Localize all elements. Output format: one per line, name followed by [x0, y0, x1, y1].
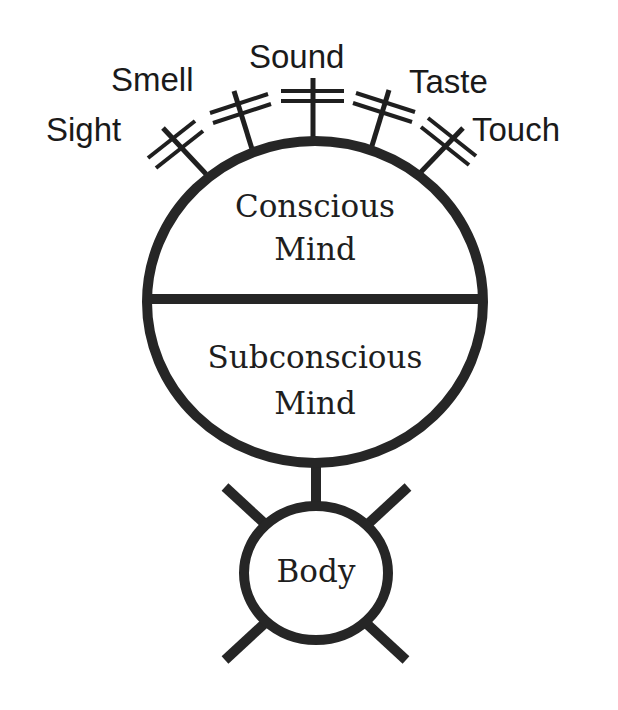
sense-label-taste: Taste [409, 63, 488, 100]
conscious-label-line1: Conscious [235, 188, 395, 224]
sense-label-sight: Sight [46, 111, 121, 148]
diagram-canvas: Sight Smell Sound Taste Touch Conscious … [0, 0, 618, 710]
subconscious-label-line2: Mind [274, 385, 355, 421]
body-label: Body [277, 553, 356, 589]
mind-body-diagram: Sight Smell Sound Taste Touch Conscious … [0, 0, 618, 710]
sense-label-touch: Touch [472, 111, 560, 148]
sight-receptor-icon [148, 121, 206, 174]
taste-receptor-icon [353, 90, 415, 149]
sense-label-smell: Smell [111, 61, 194, 98]
conscious-label-line2: Mind [274, 231, 355, 267]
touch-receptor-icon [419, 118, 476, 174]
subconscious-label-line1: Subconscious [208, 339, 423, 375]
smell-receptor-icon [210, 91, 271, 149]
sense-label-sound: Sound [249, 38, 344, 75]
sound-receptor-icon [281, 78, 344, 140]
